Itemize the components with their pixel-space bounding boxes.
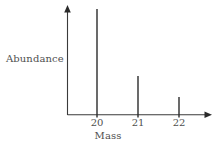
x-tick-label: 22 [173,117,186,128]
y-axis-arrow-icon [64,5,71,13]
x-axis-arrow-icon [205,112,213,119]
x-tick-label: 21 [132,117,145,128]
plot-area: Abundance Mass 20 21 22 [0,0,216,147]
mass-spectrum-figure: Abundance Mass 20 21 22 [0,0,216,147]
x-tick-label: 20 [91,117,104,128]
x-axis-label: Mass [0,130,216,141]
peak-group [97,9,179,118]
y-axis-label: Abundance [6,53,64,64]
